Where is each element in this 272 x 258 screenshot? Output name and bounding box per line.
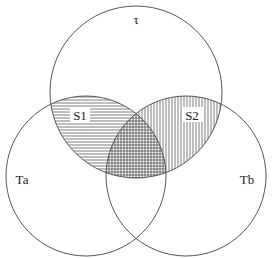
label-tau: τ [133, 12, 138, 27]
label-s1: S1 [73, 108, 87, 123]
label-ta: Ta [16, 172, 29, 187]
label-tb: Tb [240, 172, 254, 187]
venn-diagram: τ S1 S2 Ta Tb [0, 0, 272, 258]
label-s2: S2 [185, 108, 199, 123]
